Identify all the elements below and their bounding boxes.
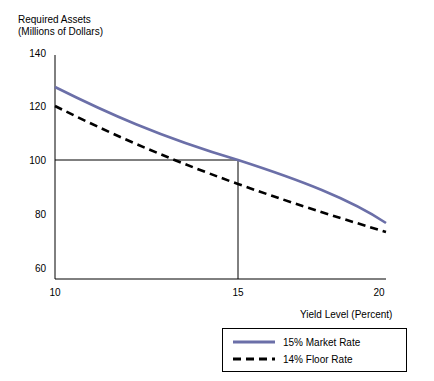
legend-item-14-floor-rate: 14% Floor Rate (233, 352, 352, 366)
legend-item-15-market-rate: 15% Market Rate (233, 335, 360, 349)
plot-area (0, 0, 434, 381)
legend-label-14-floor-rate: 14% Floor Rate (283, 354, 352, 365)
legend-label-15-market-rate: 15% Market Rate (283, 337, 360, 348)
chart-container: Required Assets(Millions of Dollars) Yie… (0, 0, 434, 381)
chart-legend: 15% Market Rate 14% Floor Rate (222, 328, 407, 372)
series-line-15-market-rate (55, 87, 386, 223)
series-line-14-floor-rate (55, 106, 386, 232)
legend-swatch-dashed-icon (233, 354, 275, 364)
legend-swatch-solid-icon (233, 337, 275, 347)
